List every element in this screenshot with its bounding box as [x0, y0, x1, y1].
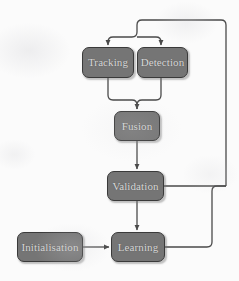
edge-learning-feedback: [165, 186, 226, 247]
node-learning-label: Learning: [118, 241, 159, 252]
node-tracking[interactable]: Tracking: [82, 47, 134, 78]
edge-top-feedback-rail: [108, 20, 226, 186]
node-fusion-label: Fusion: [122, 120, 153, 131]
node-fusion[interactable]: Fusion: [114, 111, 160, 141]
diagram-canvas: Tracking Detection Fusion Validation Lea…: [0, 0, 239, 281]
node-initialisation[interactable]: Initialisation: [17, 232, 83, 262]
node-detection-label: Detection: [141, 57, 185, 68]
node-validation-label: Validation: [112, 180, 158, 191]
node-validation[interactable]: Validation: [107, 171, 164, 201]
edge-detection-to-fusion: [137, 78, 161, 109]
node-initialisation-label: Initialisation: [21, 241, 78, 252]
node-tracking-label: Tracking: [88, 57, 128, 68]
edge-top-feedback-branch-right: [137, 37, 161, 45]
node-learning[interactable]: Learning: [111, 232, 165, 262]
node-detection[interactable]: Detection: [137, 47, 188, 78]
edge-tracking-to-fusion: [108, 78, 137, 109]
